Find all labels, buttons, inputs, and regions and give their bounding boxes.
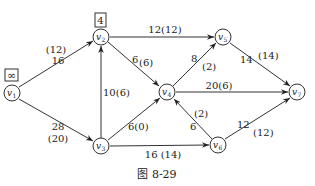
svg-text:v: v	[96, 141, 101, 151]
edge-label-v6-v7-flow: (12)	[253, 127, 274, 138]
svg-text:v: v	[213, 140, 218, 150]
svg-text:2: 2	[102, 36, 106, 43]
edge-label-v1-v3-capacity: 28	[52, 121, 65, 132]
edge-v6-v4	[174, 99, 212, 139]
flow-network-diagram: (12) 16 28 (20) 10(6) 12(12) 6 (6) 6(0) …	[0, 0, 315, 186]
edge-label-v1-v2-capacity: 16	[52, 55, 65, 66]
edge-label-v2-v4-flow: (6)	[139, 57, 153, 68]
node-v7: v 7	[289, 84, 305, 100]
edge-label-v6-v4-capacity: 6	[190, 121, 196, 132]
figure-caption: 图 8-29	[137, 168, 176, 181]
edge-label-v6-v4-flow: (2)	[194, 108, 208, 119]
svg-text:v: v	[7, 88, 12, 98]
edge-label-v5-v7-capacity: 14	[240, 54, 253, 65]
node-v2: v 2	[93, 29, 109, 45]
edge-label-v2-v4-capacity: 6	[132, 54, 138, 65]
edge-label-v1-v2-flow: (12)	[46, 44, 67, 55]
node-v6: v 6	[210, 137, 226, 153]
node-v1: v 1	[4, 85, 20, 101]
node-v5: v 5	[215, 29, 231, 45]
edge-label-v4-v5-flow: (2)	[202, 61, 216, 72]
svg-text:3: 3	[102, 145, 106, 152]
node-v4: v 4	[159, 84, 175, 100]
edge-v3-v6	[110, 145, 209, 146]
svg-text:7: 7	[298, 91, 302, 98]
node-v3: v 3	[93, 138, 109, 154]
edge-label-v2-v5: 12(12)	[148, 24, 181, 35]
svg-text:5: 5	[224, 36, 228, 43]
edge-v3-v4	[108, 98, 160, 140]
edge-label-v4-v5-capacity: 8	[191, 53, 197, 64]
svg-text:4: 4	[168, 91, 172, 98]
edge-label-v6-v7-capacity: 12	[237, 119, 250, 130]
svg-text:6: 6	[219, 144, 223, 151]
edge-label-v5-v7-flow: (14)	[258, 50, 279, 61]
edge-label-v1-v3-flow: (20)	[48, 133, 69, 144]
edge-label-v3-v6: 16 (14)	[145, 149, 182, 160]
svg-text:1: 1	[13, 92, 17, 99]
edge-label-v3-v2: 10(6)	[103, 87, 130, 98]
svg-text:v: v	[96, 32, 101, 42]
svg-text:v: v	[292, 87, 297, 97]
edge-label-v3-v4: 6(0)	[128, 121, 149, 132]
svg-text:v: v	[218, 32, 223, 42]
svg-text:v: v	[162, 87, 167, 97]
mark-text-v2: 4	[97, 15, 103, 26]
mark-text-v1: ∞	[7, 69, 16, 82]
edge-label-v4-v7: 20(6)	[206, 80, 233, 91]
